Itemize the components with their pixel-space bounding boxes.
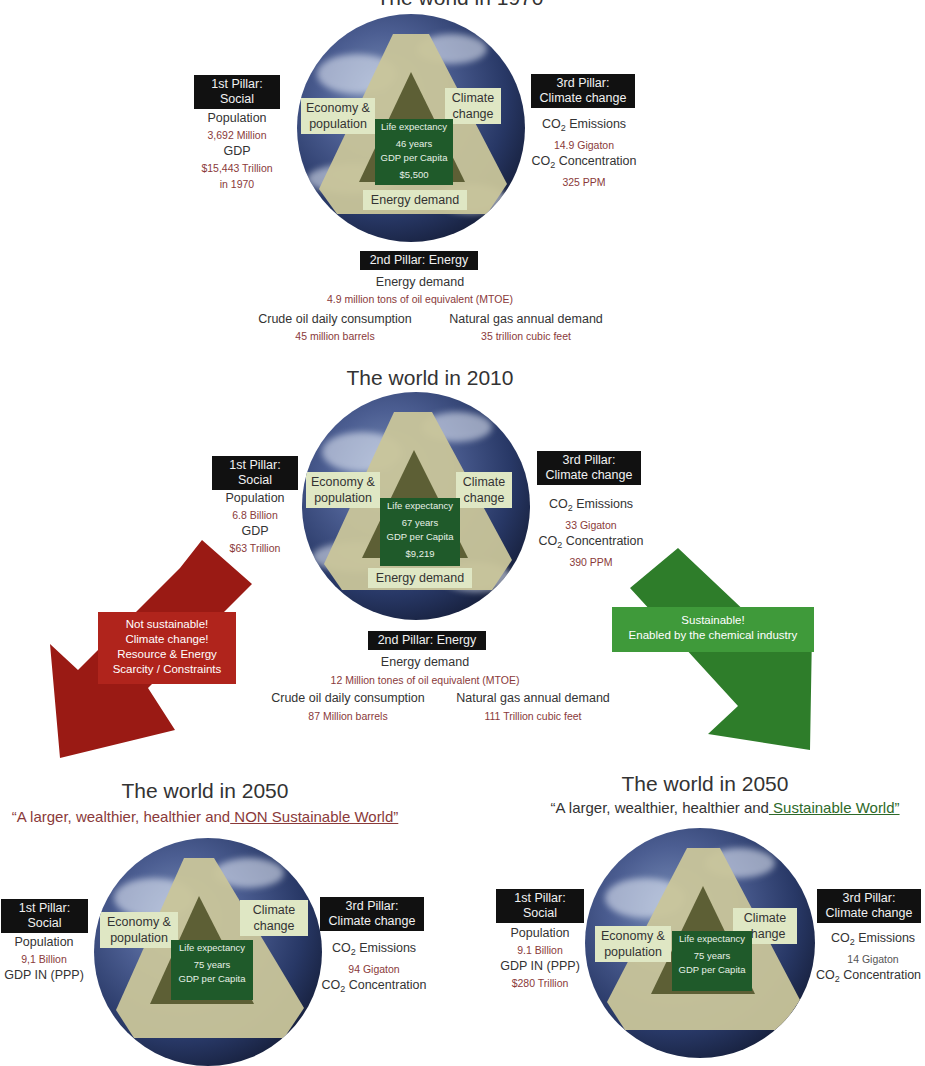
gas-label-1970: Natural gas annual demand (440, 311, 612, 328)
pillar3-stats-1970: CO2 Emissions 14.9 Gigaton CO2 Concentra… (524, 116, 644, 190)
energy-demand-value-1970: 4.9 million tons of oil equivalent (MTOE… (260, 291, 580, 307)
climate-tag: Climatechange (445, 88, 501, 124)
oil-value-1970: 45 million barrels (250, 328, 420, 344)
economy-tag: Economy &population (595, 926, 671, 962)
not-sustainable-label: Not sustainable! Climate change! Resourc… (98, 612, 236, 684)
globe-2050-sus: Economy &population Climatechange Life e… (585, 828, 815, 1058)
energy-demand-value-2010: 12 Million tones of oil equivalent (MTOE… (265, 672, 585, 688)
title-2050-sus: The world in 2050 (560, 772, 850, 796)
gas-value-1970: 35 trillion cubic feet (440, 328, 612, 344)
energy-demand-tag: Energy demand (368, 568, 472, 588)
globe-2050-non: Economy &population Climatechange Life e… (94, 838, 322, 1066)
globe-1970: Economy &population Climatechange Life e… (297, 14, 525, 242)
pillar3-heading-1970: 3rd Pillar:Climate change (531, 74, 635, 108)
pillar1-heading-2050-non: 1st Pillar:Social (1, 899, 88, 933)
pillar2-heading-1970: 2nd Pillar: Energy (360, 251, 478, 270)
sustainable-label: Sustainable! Enabled by the chemical ind… (612, 607, 814, 652)
subtitle-2050-non: “A larger, wealthier, healthier and NON … (0, 808, 410, 825)
gas-label-2010: Natural gas annual demand (447, 690, 619, 707)
title-1970: The world in 1970 (300, 0, 620, 10)
pillar3-heading-2050-sus: 3rd Pillar:Climate change (817, 889, 921, 923)
pillar1-stats-2050-sus: Population 9.1 Billion GDP IN (PPP) $280… (490, 925, 590, 991)
economy-tag: Economy &population (306, 472, 380, 508)
oil-label-2010: Crude oil daily consumption (262, 690, 434, 707)
energy-demand-label-2010: Energy demand (325, 654, 525, 671)
pillar3-heading-2050-non: 3rd Pillar:Climate change (320, 897, 424, 931)
globe-2010: Economy &population Climatechange Life e… (302, 392, 530, 620)
title-2050-non: The world in 2050 (60, 779, 350, 803)
pillar1-heading-2010: 1st Pillar:Social (212, 456, 298, 490)
life-expectancy-box: Life expectancy 46 years GDP per Capita … (375, 119, 453, 185)
life-expectancy-box: Life expectancy 75 years GDP per Capita (672, 931, 752, 991)
pillar1-stats-1970: Population 3,692 Million GDP $15,443 Tri… (187, 110, 287, 192)
climate-tag: Climatechange (456, 472, 512, 508)
pillar1-heading-1970: 1st Pillar:Social (194, 75, 280, 109)
economy-tag: Economy &population (301, 98, 375, 134)
life-expectancy-box: Life expectancy 75 years GDP per Capita (171, 940, 253, 1000)
pillar1-heading-2050-sus: 1st Pillar:Social (496, 889, 584, 923)
pillar3-heading-2010: 3rd Pillar:Climate change (537, 451, 641, 485)
oil-value-2010: 87 Million barrels (262, 708, 434, 724)
pillar2-heading-2010: 2nd Pillar: Energy (368, 631, 486, 650)
energy-demand-label-1970: Energy demand (320, 274, 520, 291)
pillar1-stats-2050-non: Population 9,1 Billion GDP IN (PPP) (0, 934, 92, 984)
oil-label-1970: Crude oil daily consumption (250, 311, 420, 328)
climate-tag: Climatechange (240, 900, 308, 936)
subtitle-2050-sus: “A larger, wealthier, healthier and Sust… (530, 799, 920, 816)
pillar3-stats-2050-sus: CO2 Emissions 14 Gigaton CO2 Concentrati… (812, 930, 925, 988)
pillar3-stats-2050-non: CO2 Emissions 94 Gigaton CO2 Concentrati… (314, 940, 434, 998)
gas-value-2010: 111 Trillion cubic feet (447, 708, 619, 724)
life-expectancy-box: Life expectancy 67 years GDP per Capita … (380, 498, 460, 566)
economy-tag: Economy &population (100, 912, 178, 948)
energy-demand-tag: Energy demand (363, 190, 467, 210)
title-2010: The world in 2010 (270, 366, 590, 390)
